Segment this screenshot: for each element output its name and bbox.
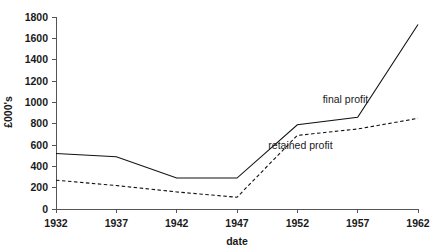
chart-canvas: 020040060080010001200140016001800 193219… [0, 0, 435, 250]
y-tick-labels: 020040060080010001200140016001800 [25, 11, 49, 215]
x-tick-label: 1932 [44, 217, 68, 229]
y-tick-label: 200 [30, 181, 48, 193]
line-chart: 020040060080010001200140016001800 193219… [0, 0, 435, 250]
y-tick-label: 600 [30, 139, 48, 151]
y-tick-label: 800 [30, 117, 48, 129]
y-tick-label: 1000 [25, 96, 49, 108]
y-tick-label: 400 [30, 160, 48, 172]
x-tick-label: 1937 [105, 217, 129, 229]
y-tick-label: 1600 [25, 32, 49, 44]
x-tick-label: 1957 [346, 217, 370, 229]
series-annotation-1: retained profit [268, 139, 332, 151]
data-series-group [56, 24, 418, 197]
y-axis: 020040060080010001200140016001800 [25, 11, 56, 215]
y-axis-title: £000's [2, 96, 14, 128]
x-axis: 1932193719421947195219571962 [44, 209, 430, 229]
x-tick-labels: 1932193719421947195219571962 [44, 217, 430, 229]
y-tick-label: 1400 [25, 53, 49, 65]
series-line-1 [56, 118, 418, 197]
x-tick-marks [56, 209, 418, 213]
x-axis-title: date [226, 235, 248, 247]
x-tick-label: 1947 [225, 217, 249, 229]
x-tick-label: 1952 [286, 217, 310, 229]
y-tick-label: 0 [42, 203, 48, 215]
y-tick-label: 1800 [25, 11, 49, 23]
series-annotation-0: final profit [323, 93, 369, 105]
y-tick-label: 1200 [25, 75, 49, 87]
y-tick-marks [52, 17, 56, 209]
x-tick-label: 1942 [165, 217, 189, 229]
x-tick-label: 1962 [406, 217, 430, 229]
